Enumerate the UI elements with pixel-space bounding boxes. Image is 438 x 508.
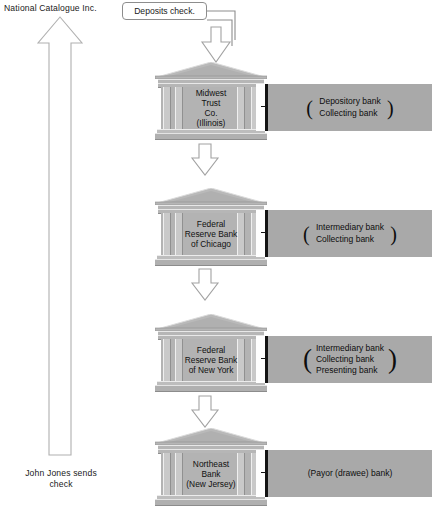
forward-arrow-1-icon [192, 144, 218, 175]
forward-arrow-2-icon [192, 269, 218, 300]
role-paren-left: ( [303, 224, 310, 244]
role-paren-right: ) [387, 98, 394, 118]
role-bracket-notch [261, 232, 266, 233]
bank-name: Midwest Trust Co. (Illinois) [167, 88, 255, 129]
bank-row: Northeast Bank (New Jersey)(Payor (drawe… [0, 428, 438, 506]
bank-name: Federal Reserve Bank of Chicago [167, 219, 255, 250]
bank-role-panel: (Payor (drawee) bank) [268, 450, 432, 497]
bank-building: Northeast Bank (New Jersey) [155, 428, 267, 506]
role-bracket-notch [261, 358, 266, 359]
bracket-gap [256, 336, 265, 383]
plinth [155, 133, 267, 140]
bank-row: Federal Reserve Bank of ChicagoIntermedi… [0, 188, 438, 266]
role-bracket-notch [261, 472, 266, 473]
role-paren-right: ) [390, 224, 397, 244]
plinth [155, 385, 267, 392]
plinth [155, 259, 267, 266]
bank-row: Midwest Trust Co. (Illinois)Depository b… [0, 62, 438, 140]
callout-tail [207, 11, 235, 46]
role-paren-right: ) [388, 346, 397, 373]
check-collection-diagram: National Catalogue Inc. John Jones sends… [0, 0, 438, 508]
pediment-icon [155, 62, 267, 79]
callout-text: Deposits check. [123, 6, 206, 16]
bank-building: Federal Reserve Bank of New York [155, 314, 267, 392]
bank-role-panel: Intermediary bank Collecting bank() [268, 210, 432, 257]
bracket-gap [256, 84, 265, 131]
bank-role-text: Intermediary bank Collecting bank Presen… [303, 343, 397, 377]
forward-arrow-3-icon [192, 396, 218, 427]
bank-role-text: (Payor (drawee) bank) [308, 468, 393, 479]
role-paren-left: ( [303, 346, 312, 373]
callout-box: Deposits check. [122, 2, 207, 20]
bank-role-panel: Intermediary bank Collecting bank Presen… [268, 336, 432, 383]
bank-name: Northeast Bank (New Jersey) [167, 459, 255, 490]
deposit-arrow-icon [202, 27, 230, 62]
pediment-icon [155, 188, 267, 205]
bracket-gap [256, 450, 265, 497]
role-bracket-notch [261, 106, 266, 107]
plinth [155, 499, 267, 506]
bank-row: Federal Reserve Bank of New YorkIntermed… [0, 314, 438, 392]
bank-building: Midwest Trust Co. (Illinois) [155, 62, 267, 140]
bank-role-panel: Depository bank Collecting bank() [268, 84, 432, 131]
bank-name: Federal Reserve Bank of New York [167, 345, 255, 376]
bank-role-text: Intermediary bank Collecting bank() [303, 222, 397, 244]
bank-building: Federal Reserve Bank of Chicago [155, 188, 267, 266]
bank-role-text: Depository bank Collecting bank() [306, 96, 393, 118]
pediment-icon [155, 314, 267, 331]
role-paren-left: ( [306, 98, 313, 118]
bracket-gap [256, 210, 265, 257]
pediment-icon [155, 428, 267, 445]
origin-label: National Catalogue Inc. [4, 3, 97, 14]
